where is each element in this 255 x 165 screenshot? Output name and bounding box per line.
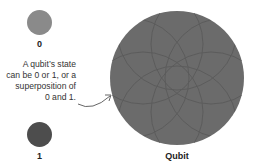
state-0-circle (27, 10, 52, 35)
qubit-sphere (109, 10, 245, 146)
description-line: superposition of (0, 81, 76, 92)
description: A qubit’s state can be 0 or 1, or a supe… (0, 59, 76, 103)
description-line: can be 0 or 1, or a (0, 70, 76, 81)
description-line: A qubit’s state (0, 59, 76, 70)
description-line: 0 and 1. (0, 92, 76, 103)
state-1-label: 1 (27, 151, 52, 161)
qubit-label: Qubit (157, 151, 197, 161)
state-0-label: 0 (27, 39, 52, 49)
state-1-circle (27, 122, 52, 147)
